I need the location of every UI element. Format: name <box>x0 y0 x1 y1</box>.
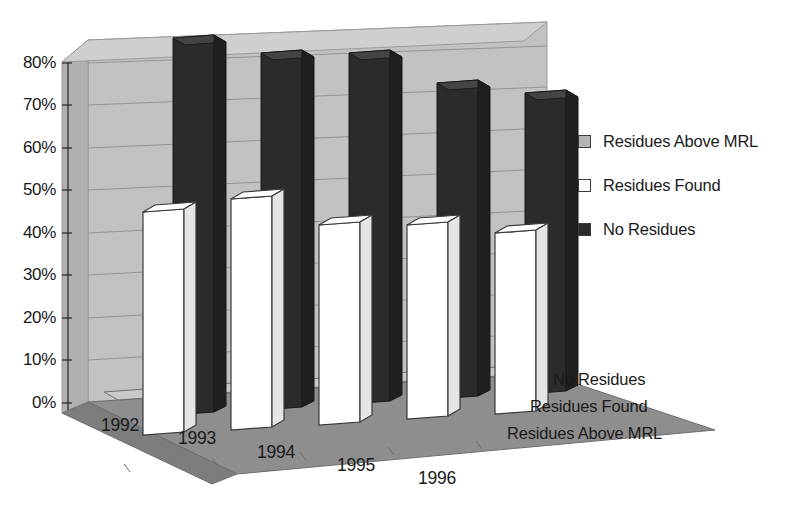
z-axis-label-residues-found: Residues Found <box>530 397 647 416</box>
bar-residues-found-1994 <box>319 215 372 425</box>
legend-label-no-residues: No Residues <box>603 220 695 239</box>
legend-item-residues-above-mrl[interactable]: Residues Above MRL <box>578 131 758 151</box>
bar-residues-found-1996 <box>495 223 548 414</box>
legend-swatch-residues-above-mrl <box>578 135 591 148</box>
y-tick-label: 10% <box>0 350 56 370</box>
y-tick-label: 60% <box>0 138 56 158</box>
bar-residues-found-1993 <box>231 189 284 430</box>
chart-3d-residues: 80% 70% 60% 50% 40% 30% 20% 10% 0% 1992 … <box>0 0 805 506</box>
legend-label-residues-above-mrl: Residues Above MRL <box>603 132 758 151</box>
y-tick-label: 0% <box>0 393 56 413</box>
z-axis-label-no-residues: No Residues <box>553 370 645 389</box>
legend-label-residues-found: Residues Found <box>603 176 720 195</box>
y-tick-label: 40% <box>0 223 56 243</box>
x-axis-label-1996: 1996 <box>418 468 456 489</box>
x-axis-label-1995: 1995 <box>337 455 375 476</box>
x-axis-label-1992: 1992 <box>101 415 139 436</box>
z-axis-label-residues-above-mrl: Residues Above MRL <box>507 424 662 443</box>
y-tick-label: 30% <box>0 265 56 285</box>
legend-swatch-residues-found <box>578 179 591 192</box>
left-side-wall <box>62 40 88 413</box>
y-tick-label: 80% <box>0 53 56 73</box>
bar-residues-found-1995 <box>407 215 460 419</box>
legend-swatch-no-residues <box>578 223 591 236</box>
legend-item-no-residues[interactable]: No Residues <box>578 219 758 239</box>
x-axis-label-1994: 1994 <box>257 442 295 463</box>
bar-residues-found-1992 <box>143 202 196 435</box>
y-tick-label: 50% <box>0 180 56 200</box>
x-axis-label-1993: 1993 <box>178 428 216 449</box>
legend-item-residues-found[interactable]: Residues Found <box>578 175 758 195</box>
chart-legend: Residues Above MRL Residues Found No Res… <box>578 131 758 263</box>
y-tick-label: 70% <box>0 95 56 115</box>
y-tick-label: 20% <box>0 308 56 328</box>
